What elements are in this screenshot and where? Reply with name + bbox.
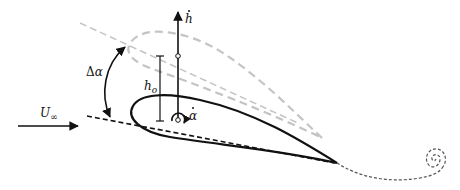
- freestream-symbol: U: [40, 106, 50, 120]
- displaced-pivot-icon: [176, 54, 181, 59]
- alpha-symbol: α: [95, 65, 103, 79]
- wake-vortex-spiral: [426, 149, 445, 168]
- h-subscript: o: [152, 85, 157, 95]
- wake-line: [337, 163, 442, 180]
- freestream-label: U∞: [40, 107, 58, 122]
- displaced-airfoil: [128, 32, 322, 138]
- airfoil: [131, 95, 337, 163]
- freestream-subscript: ∞: [50, 112, 58, 122]
- pitch-amplitude-arrow: [105, 47, 125, 117]
- delta-symbol: Δ: [86, 65, 95, 79]
- pitch-rate-label: α: [189, 110, 197, 122]
- pivot-point-icon: [176, 118, 181, 123]
- diagram-svg: [0, 0, 460, 190]
- alpha-dot-symbol: α: [189, 110, 197, 122]
- plunge-rate-label: h: [185, 13, 193, 25]
- airfoil-kinematics-diagram: U∞ Δα ho h α: [0, 0, 460, 190]
- plunge-amplitude-label: ho: [144, 80, 157, 95]
- pitch-amplitude-label: Δα: [86, 66, 103, 78]
- h-dot-symbol: h: [185, 13, 193, 25]
- h-symbol: h: [144, 79, 152, 93]
